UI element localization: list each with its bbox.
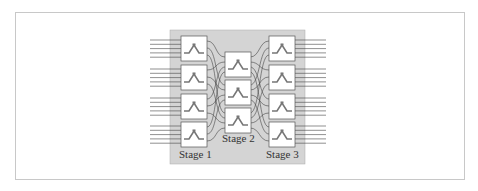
switch-box — [181, 65, 207, 90]
switch-box — [181, 36, 207, 61]
switch-glyph-icon — [281, 73, 284, 75]
stage-3-switch — [269, 36, 295, 61]
stage-2-switch — [225, 52, 251, 77]
stage-2-switch — [225, 80, 251, 105]
stage-1-switch — [181, 65, 207, 90]
switch-glyph-icon — [193, 130, 196, 132]
stage-1-switch — [181, 94, 207, 119]
stage-3-switch — [269, 65, 295, 90]
switch-glyph-icon — [193, 44, 196, 46]
stage-3-switch — [269, 94, 295, 119]
switch-box — [225, 108, 251, 133]
stage-2-label: Stage 2 — [222, 132, 255, 144]
stage-1-switch — [181, 36, 207, 61]
stage-2-switch — [225, 108, 251, 133]
switch-box — [269, 65, 295, 90]
switch-box — [269, 94, 295, 119]
switch-glyph-icon — [237, 116, 240, 118]
switch-box — [225, 52, 251, 77]
switch-box — [225, 80, 251, 105]
stage-1-switch — [181, 122, 207, 147]
switch-box — [181, 122, 207, 147]
switch-glyph-icon — [237, 60, 240, 62]
switch-glyph-icon — [193, 102, 196, 104]
switch-glyph-icon — [193, 73, 196, 75]
stage-3-label: Stage 3 — [266, 148, 299, 160]
switch-box — [181, 94, 207, 119]
switch-glyph-icon — [237, 88, 240, 90]
switch-box — [269, 36, 295, 61]
stage-3-switch — [269, 122, 295, 147]
switch-glyph-icon — [281, 102, 284, 104]
switch-box — [269, 122, 295, 147]
stage-1-label: Stage 1 — [179, 148, 212, 160]
switch-glyph-icon — [281, 44, 284, 46]
switching-network-diagram: Stage 1 Stage 2 Stage 3 — [0, 0, 478, 191]
switch-glyph-icon — [281, 130, 284, 132]
